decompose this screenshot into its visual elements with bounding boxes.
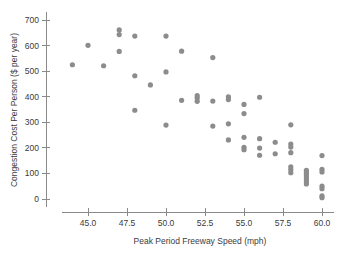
data-point (179, 98, 184, 103)
x-tick-label: 45.0 (80, 218, 97, 228)
data-point (288, 170, 293, 175)
data-point (163, 69, 168, 74)
x-tick-label: 47.5 (119, 218, 136, 228)
data-point (241, 111, 246, 116)
y-tick-label: 700 (25, 15, 39, 25)
y-tick-label: 0 (34, 194, 39, 204)
data-point (85, 43, 90, 48)
data-point (241, 147, 246, 152)
data-point (288, 144, 293, 149)
data-point (226, 121, 231, 126)
data-point (241, 135, 246, 140)
y-tick-label: 100 (25, 168, 39, 178)
data-point (117, 27, 122, 32)
x-tick-label: 52.5 (197, 218, 214, 228)
data-point (273, 140, 278, 145)
plot-area: 0100200300400500600700 45.047.550.052.55… (0, 0, 341, 259)
data-point (226, 137, 231, 142)
y-tick-label: 200 (25, 143, 39, 153)
data-point (132, 73, 137, 78)
data-point (132, 34, 137, 39)
data-point (101, 63, 106, 68)
data-point (257, 95, 262, 100)
data-point (210, 98, 215, 103)
data-point (179, 49, 184, 54)
data-points (70, 27, 325, 200)
x-tick-label: 50.0 (158, 218, 175, 228)
data-point (70, 62, 75, 67)
data-point (288, 122, 293, 127)
data-point (319, 195, 324, 200)
data-point (304, 181, 309, 186)
data-point (132, 108, 137, 113)
data-point (226, 97, 231, 102)
y-tick-label: 400 (25, 92, 39, 102)
x-tick-label: 57.5 (275, 218, 292, 228)
x-axis-title: Peak Period Freeway Speed (mph) (134, 236, 267, 246)
x-tick-label: 60.0 (314, 218, 331, 228)
scatter-chart: 0100200300400500600700 45.047.550.052.55… (0, 0, 341, 259)
data-point (163, 123, 168, 128)
y-tick-label: 600 (25, 41, 39, 51)
data-point (117, 49, 122, 54)
x-axis: 45.047.550.052.555.057.560.0 (62, 208, 334, 228)
data-point (319, 186, 324, 191)
y-axis: 0100200300400500600700 (25, 12, 50, 207)
data-point (163, 34, 168, 39)
data-point (257, 146, 262, 151)
y-tick-label: 300 (25, 117, 39, 127)
data-point (195, 99, 200, 104)
y-tick-label: 500 (25, 66, 39, 76)
data-point (148, 82, 153, 87)
data-point (257, 153, 262, 158)
data-point (241, 102, 246, 107)
data-point (257, 136, 262, 141)
y-axis-title: Congestion Cost Per Person ($ per year) (9, 33, 19, 187)
data-point (273, 151, 278, 156)
data-point (210, 55, 215, 60)
data-point (117, 32, 122, 37)
data-point (210, 124, 215, 129)
data-point (288, 150, 293, 155)
data-point (319, 169, 324, 174)
x-tick-label: 55.0 (236, 218, 253, 228)
data-point (319, 153, 324, 158)
